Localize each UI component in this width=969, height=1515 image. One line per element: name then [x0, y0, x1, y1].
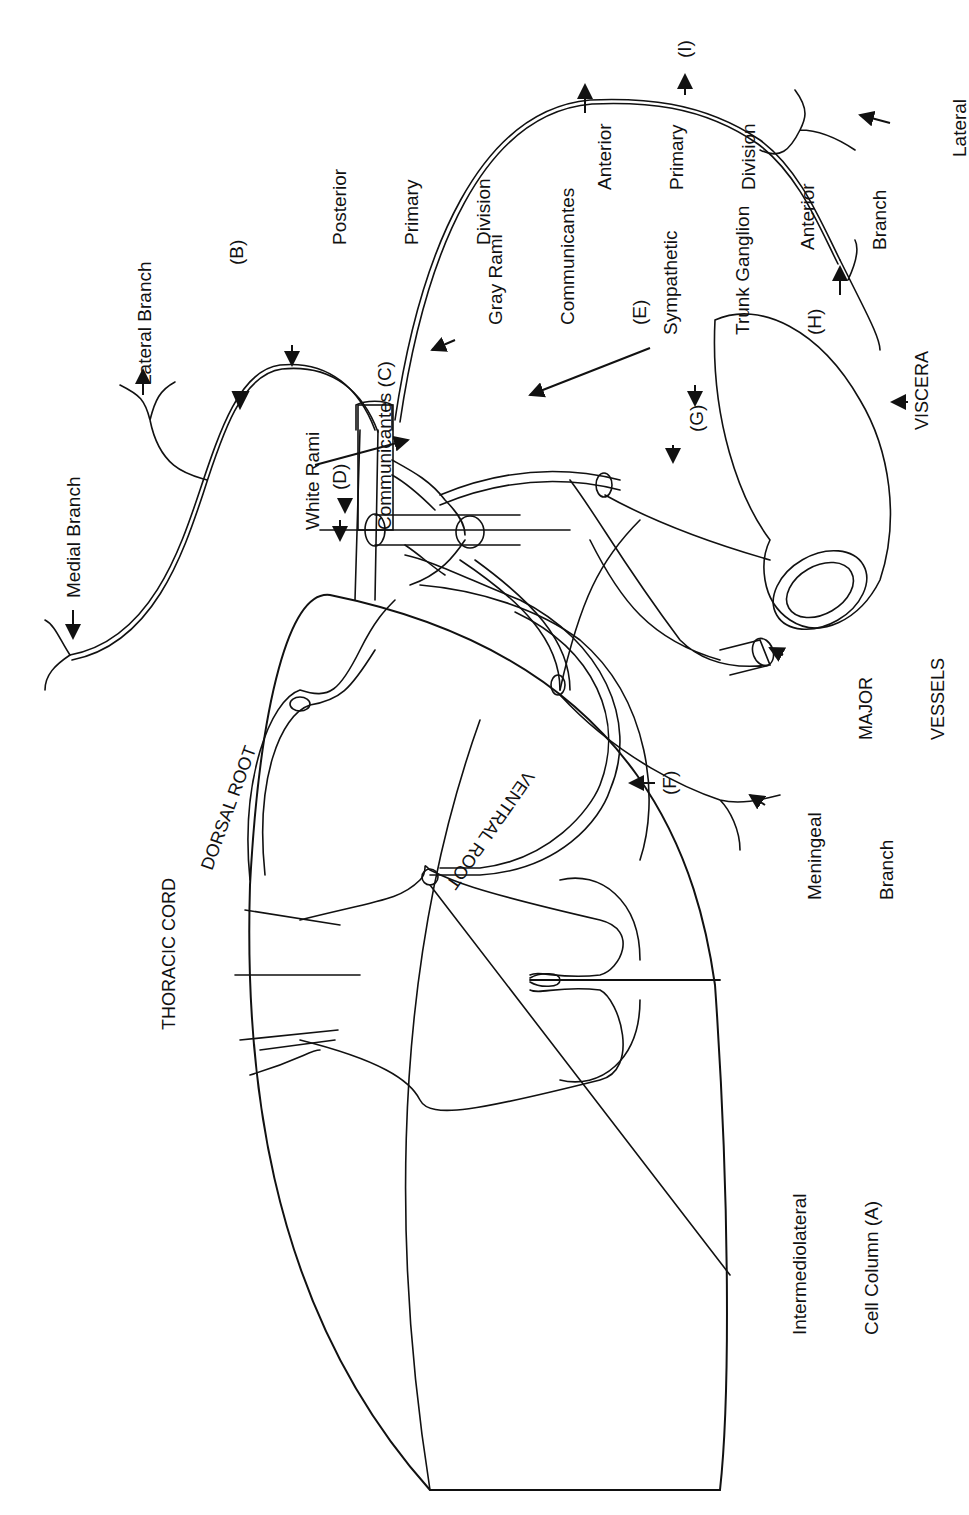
label-viscera: VISCERA: [910, 351, 934, 430]
major-vessels-shape: [570, 480, 770, 675]
label-i-marker: (I): [673, 40, 697, 58]
label-major-vessels: MAJOR VESSELS: [806, 658, 969, 740]
label-f-marker: (F): [658, 771, 682, 795]
label-thoracic-cord: THORACIC CORD: [157, 878, 181, 1030]
label-lateral-branch-posterior: Lateral Branch: [133, 261, 157, 385]
label-lateral-branch-anterior: Lateral Branch: [900, 97, 969, 157]
label-white-rami-communicantes: White Rami Communicantes (C): [253, 361, 421, 530]
label-b-marker: (B): [225, 240, 249, 265]
label-sympathetic-trunk-ganglion: Sympathetic Trunk Ganglion (H): [611, 206, 851, 335]
label-intermediolateral-cell-column: Intermediolateral Cell Column (A): [740, 1193, 908, 1335]
viscera-shape: [714, 314, 890, 628]
label-g-marker: (G): [685, 405, 709, 432]
label-meningeal-branch: Meningeal Branch: [755, 812, 923, 900]
label-anterior-primary-division: Anterior Primary Division: [545, 123, 785, 190]
label-medial-branch: Medial Branch: [62, 477, 86, 598]
